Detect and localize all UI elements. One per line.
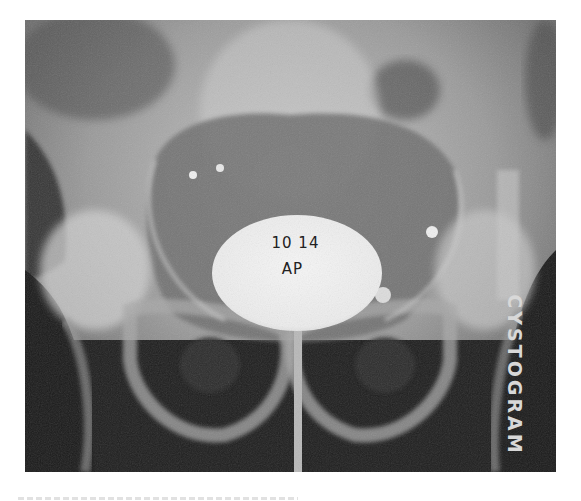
film-annotation-view: AP	[25, 260, 556, 278]
study-label-text: CYSTOGRAM	[504, 294, 526, 455]
caption-ghost	[18, 497, 298, 500]
film-annotation-number: 10 14	[25, 234, 556, 252]
study-side-label: CYSTOGRAM	[503, 290, 527, 460]
cropped-caption	[18, 494, 298, 501]
xray-film: 10 14 AP CYSTOGRAM	[25, 20, 556, 472]
